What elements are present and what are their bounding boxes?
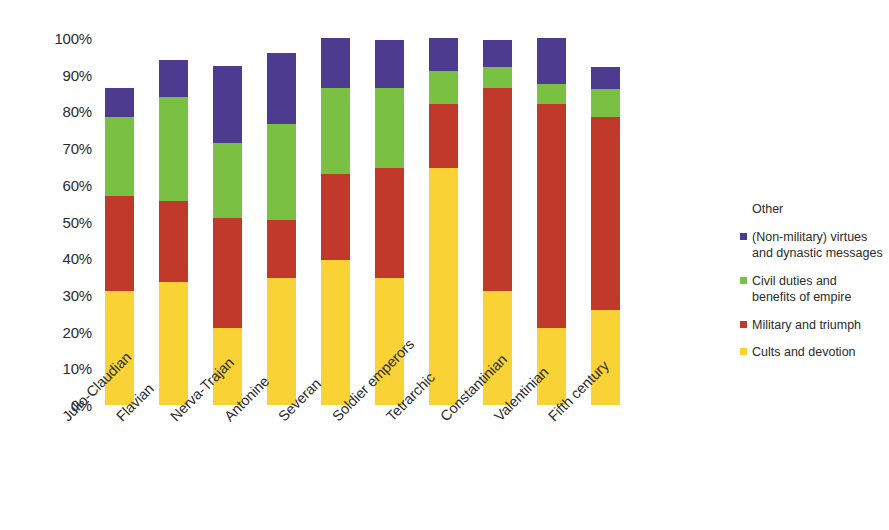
- bar-segment[interactable]: [537, 84, 566, 104]
- y-tick-label: 100%: [54, 30, 92, 47]
- bar-segment[interactable]: [375, 88, 404, 169]
- bar-segment[interactable]: [267, 124, 296, 219]
- x-axis: Julio-ClaudianFlavianNerva-TrajanAntonin…: [96, 405, 656, 530]
- bar-segment[interactable]: [267, 278, 296, 405]
- bar-segment[interactable]: [213, 218, 242, 328]
- bar-segment[interactable]: [483, 291, 512, 405]
- legend-entry-label: Civil duties and benefits of empire: [752, 273, 851, 306]
- legend-entry[interactable]: (Non-military) virtues and dynastic mess…: [740, 229, 885, 262]
- y-tick-label: 90%: [63, 66, 92, 83]
- bar-segment[interactable]: [591, 89, 620, 117]
- bar-group[interactable]: [483, 40, 512, 405]
- bar-segment[interactable]: [591, 117, 620, 310]
- legend-color-swatch: [740, 348, 747, 355]
- y-tick-label: 20%: [63, 323, 92, 340]
- bar-segment[interactable]: [429, 38, 458, 71]
- legend-entry[interactable]: Civil duties and benefits of empire: [740, 273, 885, 306]
- bar-group[interactable]: [267, 53, 296, 405]
- bar-group[interactable]: [159, 60, 188, 405]
- bar-segment[interactable]: [105, 88, 134, 117]
- legend-title: Other: [752, 202, 885, 218]
- bar-segment[interactable]: [267, 53, 296, 125]
- bar-group[interactable]: [213, 66, 242, 405]
- bar-segment[interactable]: [159, 60, 188, 97]
- bar-segment[interactable]: [429, 71, 458, 104]
- bar-segment[interactable]: [159, 97, 188, 202]
- bar-segment[interactable]: [321, 88, 350, 174]
- bar-segment[interactable]: [213, 66, 242, 143]
- bar-segment[interactable]: [105, 117, 134, 196]
- chart-legend: Other (Non-military) virtues and dynasti…: [740, 202, 885, 372]
- bar-segment[interactable]: [267, 220, 296, 279]
- legend-entry-label: Cults and devotion: [752, 344, 856, 361]
- bar-segment[interactable]: [321, 38, 350, 88]
- y-axis: 0%10%20%30%40%50%60%70%80%90%100%: [38, 38, 92, 405]
- legend-color-swatch: [740, 277, 747, 284]
- y-tick-label: 70%: [63, 140, 92, 157]
- bar-segment[interactable]: [375, 168, 404, 278]
- bar-segment[interactable]: [429, 168, 458, 405]
- legend-entry-label: (Non-military) virtues and dynastic mess…: [752, 229, 883, 262]
- legend-entry-list: (Non-military) virtues and dynastic mess…: [740, 229, 885, 361]
- bar-segment[interactable]: [105, 196, 134, 291]
- bar-segment[interactable]: [591, 310, 620, 405]
- bar-segment[interactable]: [321, 260, 350, 405]
- bar-group[interactable]: [591, 67, 620, 405]
- y-tick-label: 60%: [63, 176, 92, 193]
- bar-segment[interactable]: [483, 40, 512, 68]
- bar-segment[interactable]: [105, 291, 134, 405]
- bar-segment[interactable]: [429, 104, 458, 168]
- bar-segment[interactable]: [159, 282, 188, 405]
- plot-area: [96, 38, 641, 405]
- legend-entry-label: Military and triumph: [752, 317, 861, 334]
- bar-segment[interactable]: [537, 104, 566, 328]
- bar-segment[interactable]: [375, 40, 404, 88]
- legend-color-swatch: [740, 321, 747, 328]
- y-tick-label: 10%: [63, 360, 92, 377]
- y-tick-label: 50%: [63, 213, 92, 230]
- y-tick-label: 80%: [63, 103, 92, 120]
- bar-segment[interactable]: [537, 38, 566, 84]
- bar-group[interactable]: [537, 38, 566, 405]
- bar-segment[interactable]: [159, 201, 188, 282]
- stacked-bar-chart: 0%10%20%30%40%50%60%70%80%90%100% Julio-…: [0, 0, 889, 530]
- y-tick-label: 40%: [63, 250, 92, 267]
- bar-segment[interactable]: [321, 174, 350, 260]
- legend-entry[interactable]: Military and triumph: [740, 317, 885, 334]
- legend-color-swatch: [740, 233, 747, 240]
- legend-entry[interactable]: Cults and devotion: [740, 344, 885, 361]
- bar-group[interactable]: [429, 38, 458, 405]
- bar-segment[interactable]: [591, 67, 620, 89]
- y-tick-label: 30%: [63, 286, 92, 303]
- bar-group[interactable]: [321, 38, 350, 405]
- bar-segment[interactable]: [483, 67, 512, 87]
- bar-segment[interactable]: [483, 88, 512, 292]
- bar-segment[interactable]: [213, 143, 242, 218]
